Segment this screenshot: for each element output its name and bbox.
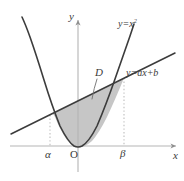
alpha-label: α [45,149,51,160]
origin-label: O [70,149,78,160]
beta-label: β [120,148,125,159]
parabola-equation-label: y=x2 [118,19,137,29]
x-axis [10,143,176,148]
math-figure: y x O α β D y=x2 y=ax+b [0,0,184,181]
region-label-d: D [95,67,103,78]
shaded-region-d [50,78,124,148]
y-axis-label: y [69,11,74,22]
parabola-equation-base: y=x [118,18,134,29]
parabola-equation-exponent: 2 [134,17,137,24]
figure-canvas [0,0,184,181]
line-equation-label: y=ax+b [126,68,158,78]
x-axis-label: x [173,150,178,161]
